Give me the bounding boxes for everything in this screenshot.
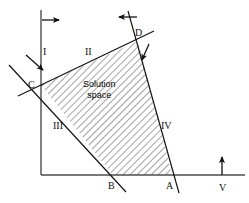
feasible-region-fill <box>41 41 172 175</box>
solution-space-line1: Solution <box>83 79 116 90</box>
vertex-label-B: B <box>108 181 115 191</box>
constraint-label-III: III <box>53 121 63 131</box>
vertex-label-D: D <box>135 28 142 38</box>
constraint-label-II: II <box>85 47 92 57</box>
solution-space-line2: space <box>83 90 116 101</box>
figure-canvas <box>0 0 249 203</box>
vertex-label-A: A <box>166 181 173 191</box>
direction-arrow-IV-lower <box>142 44 149 60</box>
constraint-label-V: V <box>219 183 226 193</box>
constraint-label-I: I <box>43 47 46 57</box>
solution-space-figure: I II III IV V A B C D Solution space <box>0 0 249 203</box>
solution-space-label: Solution space <box>83 79 116 101</box>
constraint-label-IV: IV <box>161 121 172 131</box>
vertex-label-C: C <box>28 80 35 90</box>
